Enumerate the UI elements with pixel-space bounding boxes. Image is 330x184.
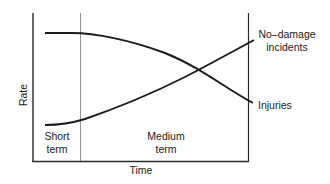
injuries-curve: [45, 33, 253, 103]
phase-label-short-line1: Short: [36, 130, 78, 143]
phase-label-short-line2: term: [36, 143, 78, 156]
phase-label-medium-line2: term: [140, 143, 192, 156]
series-label-injuries: Injuries: [258, 99, 292, 112]
no-damage-incidents-curve: [45, 40, 254, 125]
phase-label-medium-line1: Medium: [140, 130, 192, 143]
phase-label-medium-term: Medium term: [140, 130, 192, 155]
series-label-no-damage-incidents: No–damage incidents: [257, 28, 317, 53]
x-axis-label: Time: [126, 164, 156, 177]
series-label-no-damage-line1: No–damage: [257, 28, 317, 41]
phase-label-short-term: Short term: [36, 130, 78, 155]
y-axis-label: Rate: [17, 84, 29, 106]
series-label-no-damage-line2: incidents: [257, 41, 317, 54]
